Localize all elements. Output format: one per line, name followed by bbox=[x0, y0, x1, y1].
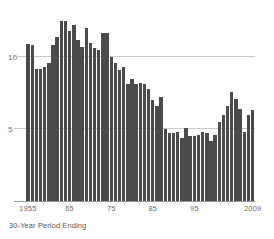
bar bbox=[47, 63, 50, 201]
bar bbox=[213, 135, 216, 201]
bar bbox=[85, 28, 88, 201]
bar bbox=[93, 48, 96, 201]
bar bbox=[230, 92, 233, 201]
bar bbox=[226, 106, 229, 201]
bar bbox=[130, 79, 133, 201]
bar bbox=[222, 115, 225, 201]
plot-area bbox=[26, 8, 255, 201]
x-axis-tick-1955: 1955 bbox=[19, 204, 37, 213]
bar bbox=[243, 132, 246, 201]
bar bbox=[176, 132, 179, 201]
bar bbox=[251, 110, 254, 201]
bar bbox=[159, 97, 162, 201]
bar bbox=[151, 100, 154, 201]
bar bbox=[164, 129, 167, 201]
bar bbox=[184, 128, 187, 201]
bar bbox=[110, 57, 113, 201]
x-axis-tick-85: 85 bbox=[149, 204, 158, 213]
bar bbox=[143, 84, 146, 201]
bar bbox=[201, 132, 204, 201]
bar bbox=[51, 45, 54, 201]
x-axis-tick-2009: 2009 bbox=[244, 204, 262, 213]
bar bbox=[247, 115, 250, 201]
bar bbox=[126, 84, 129, 201]
bar bbox=[209, 141, 212, 201]
bar bbox=[205, 133, 208, 201]
bar bbox=[134, 84, 137, 201]
bar bbox=[234, 99, 237, 201]
bar bbox=[43, 67, 46, 201]
bar bbox=[89, 43, 92, 201]
bar bbox=[180, 138, 183, 201]
bar bbox=[147, 89, 150, 201]
bar bbox=[155, 106, 158, 201]
bar bbox=[39, 69, 42, 202]
x-axis-line bbox=[14, 201, 255, 202]
bar bbox=[64, 21, 67, 201]
x-axis-caption: 30-Year Period Ending bbox=[9, 221, 86, 230]
bar bbox=[238, 109, 241, 201]
bar bbox=[168, 133, 171, 201]
bar bbox=[97, 50, 100, 201]
x-axis-tick-95: 95 bbox=[190, 204, 199, 213]
bar bbox=[60, 21, 63, 201]
bar bbox=[26, 44, 29, 201]
bar bbox=[122, 67, 125, 201]
bar bbox=[139, 83, 142, 201]
bar bbox=[114, 63, 117, 201]
bar bbox=[55, 37, 58, 201]
y-axis-tick-10: 10 bbox=[8, 53, 24, 62]
bar bbox=[197, 135, 200, 201]
bar bbox=[118, 70, 121, 201]
x-axis-tick-75: 75 bbox=[107, 204, 116, 213]
bar bbox=[218, 122, 221, 201]
bar bbox=[35, 69, 38, 202]
x-axis-tick-65: 65 bbox=[65, 204, 74, 213]
bar bbox=[188, 136, 191, 201]
bar bbox=[72, 25, 75, 201]
bar bbox=[105, 33, 108, 202]
bar bbox=[193, 136, 196, 201]
bar bbox=[101, 33, 104, 202]
bar bbox=[80, 47, 83, 201]
bar bbox=[31, 45, 34, 201]
bar bbox=[76, 40, 79, 201]
bar bbox=[68, 31, 71, 201]
bar bbox=[172, 133, 175, 201]
y-axis-tick-5: 5 bbox=[8, 125, 24, 134]
bar-series bbox=[26, 8, 255, 201]
bar-chart-figure: 10 5 1955 65 75 85 95 2009 30-Year Perio… bbox=[0, 0, 274, 239]
